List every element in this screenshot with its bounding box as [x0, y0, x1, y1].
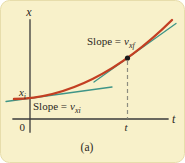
- figure-background: [1, 1, 185, 163]
- y-axis-label: x: [25, 5, 32, 19]
- slope-final-prefix: Slope =: [87, 35, 121, 47]
- slope-initial-prefix: Slope =: [33, 100, 67, 112]
- slope-initial-subscript: xi: [74, 106, 81, 115]
- figure-caption: (a): [81, 141, 94, 154]
- figure-card: x t xi 0 t Slope =vxf Slope =vxi (a): [0, 0, 185, 163]
- position-time-graph: x t xi 0 t Slope =vxf Slope =vxi (a): [0, 0, 185, 163]
- data-point-dot: [125, 55, 130, 60]
- origin-label: 0: [20, 121, 26, 133]
- initial-position-subscript: i: [24, 92, 26, 101]
